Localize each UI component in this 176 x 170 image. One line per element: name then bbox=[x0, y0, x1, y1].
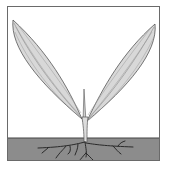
left-leaf bbox=[13, 20, 82, 119]
right-leaf bbox=[87, 24, 155, 121]
figure-caption bbox=[8, 162, 168, 170]
figure-frame bbox=[7, 6, 160, 161]
seedling-illustration bbox=[8, 7, 160, 161]
